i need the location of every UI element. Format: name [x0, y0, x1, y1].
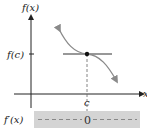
diagram-canvas: 0 f′(x) f(x) x f(c) c	[0, 0, 147, 133]
x-tick-label: c	[84, 97, 90, 108]
sign-chart-zero: 0	[84, 114, 91, 127]
sign-chart-label: f′(x)	[3, 114, 24, 125]
x-axis-label: x	[143, 88, 147, 99]
inflection-point-diagram: 0 f′(x) f(x) x f(c) c	[0, 0, 147, 133]
y-axis-label: f(x)	[21, 2, 39, 13]
y-tick-label: f(c)	[6, 49, 24, 60]
inflection-point	[85, 52, 89, 56]
